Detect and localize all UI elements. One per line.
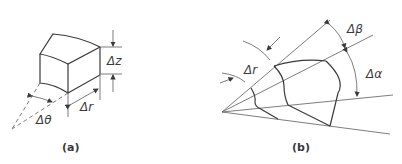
- dtheta-label: Δθ: [35, 113, 52, 127]
- outer-bottom-edge: [288, 105, 330, 126]
- figure-b-spherical-element: Δr Δβ Δα (b): [220, 20, 393, 154]
- dr-arc-outer: [243, 41, 270, 60]
- dr-label: Δr: [79, 100, 94, 114]
- dalpha-arrow: [347, 52, 357, 96]
- dr-arrow-outer: [267, 37, 280, 50]
- top-face: [40, 34, 100, 64]
- caption-a: (a): [62, 141, 79, 154]
- ray-3: [222, 95, 393, 112]
- caption-b: (b): [292, 141, 310, 154]
- ray-4: [222, 112, 390, 134]
- dalpha-label: Δα: [365, 67, 382, 81]
- dz-label: Δz: [106, 54, 122, 68]
- dbeta-arrow: [329, 24, 345, 48]
- mid-arc-edge: [274, 66, 288, 105]
- side-face: [68, 47, 100, 93]
- dbeta-label: Δβ: [346, 22, 363, 36]
- figure-a-cylindrical-element: Δz Δr Δθ (a): [12, 30, 122, 154]
- dtheta-arrow: [32, 96, 52, 102]
- diagram-canvas: Δz Δr Δθ (a) Δr Δβ Δα (b): [0, 0, 402, 164]
- front-face: [40, 54, 68, 93]
- dr-label-b: Δr: [243, 63, 258, 77]
- outer-right-edge: [326, 61, 340, 126]
- inner-arc-edge: [251, 88, 259, 108]
- dr-arrow-inner: [220, 78, 233, 83]
